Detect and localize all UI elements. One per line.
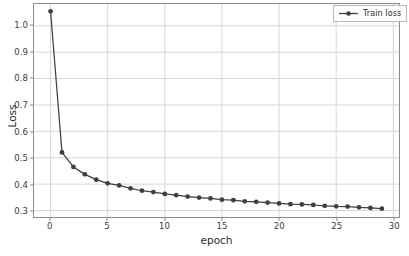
data-point-marker	[242, 199, 247, 204]
gridlines	[34, 4, 399, 217]
data-point-marker	[105, 181, 110, 186]
x-tick-label: 15	[216, 221, 227, 231]
data-point-marker	[345, 204, 350, 209]
x-tick-label: 20	[274, 221, 285, 231]
series-line-train-loss	[51, 11, 382, 208]
data-point-marker	[197, 195, 202, 200]
y-tick-label: 1.0	[4, 20, 28, 30]
legend-line-marker-icon	[338, 9, 359, 18]
data-point-marker	[288, 202, 293, 207]
x-tick-label: 0	[47, 221, 53, 231]
data-point-marker	[60, 150, 65, 155]
y-tick-label: 0.9	[4, 47, 28, 57]
x-tick-mark	[279, 218, 280, 221]
y-tick-label: 0.4	[4, 180, 28, 190]
data-series-layer	[48, 9, 384, 211]
data-point-marker	[128, 186, 133, 191]
data-point-marker	[151, 190, 156, 195]
y-tick-label: 0.3	[4, 206, 28, 216]
x-tick-mark	[107, 218, 108, 221]
x-tick-mark	[164, 218, 165, 221]
legend-box: Train loss	[333, 5, 407, 22]
data-point-marker	[311, 203, 316, 208]
data-point-marker	[379, 206, 384, 211]
data-point-marker	[71, 165, 76, 170]
x-tick-label: 25	[331, 221, 342, 231]
figure-canvas: 0.30.40.50.60.70.80.91.0 051015202530 ep…	[0, 0, 409, 256]
legend-label-train-loss: Train loss	[363, 9, 401, 18]
x-tick-label: 30	[389, 221, 400, 231]
data-point-marker	[277, 201, 282, 206]
data-point-marker	[117, 183, 122, 188]
x-tick-mark	[336, 218, 337, 221]
y-axis-title: Loss	[6, 86, 18, 146]
data-point-marker	[322, 203, 327, 208]
x-tick-label: 10	[159, 221, 170, 231]
data-point-marker	[265, 200, 270, 205]
x-tick-mark	[394, 218, 395, 221]
data-point-marker	[208, 196, 213, 201]
plot-svg	[34, 4, 399, 217]
data-point-marker	[48, 9, 53, 14]
x-tick-mark	[221, 218, 222, 221]
data-point-marker	[185, 194, 190, 199]
x-tick-mark	[49, 218, 50, 221]
data-point-marker	[140, 188, 145, 193]
x-axis-title: epoch	[33, 234, 400, 246]
data-point-marker	[300, 202, 305, 207]
data-point-marker	[220, 197, 225, 202]
data-point-marker	[94, 177, 99, 182]
plot-axes-area	[33, 3, 400, 218]
y-tick-label: 0.8	[4, 73, 28, 83]
data-point-marker	[82, 172, 87, 177]
data-point-marker	[334, 204, 339, 209]
x-tick-label: 5	[104, 221, 110, 231]
data-point-marker	[174, 193, 179, 198]
data-point-marker	[254, 199, 259, 204]
data-point-marker	[357, 205, 362, 210]
data-point-marker	[368, 206, 373, 211]
data-point-marker	[231, 198, 236, 203]
y-tick-label: 0.5	[4, 153, 28, 163]
data-point-marker	[162, 192, 167, 197]
